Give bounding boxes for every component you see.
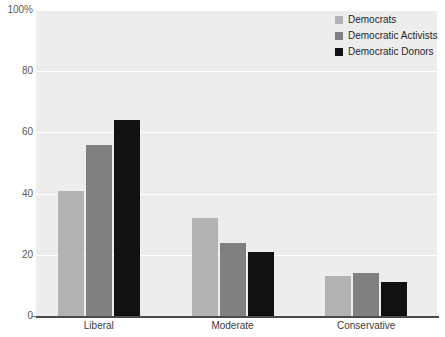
legend-label: Democratic Donors <box>348 46 434 57</box>
y-axis-tick-label: 100% <box>0 5 33 15</box>
gridline-80 <box>36 71 437 72</box>
bar <box>248 252 274 316</box>
bar <box>325 276 351 316</box>
x-axis-line <box>36 316 439 318</box>
bar <box>220 243 246 316</box>
bar <box>353 273 379 316</box>
legend: DemocratsDemocratic ActivistsDemocratic … <box>335 14 437 57</box>
bar <box>58 191 84 316</box>
bar <box>192 218 218 316</box>
gridline-60 <box>36 132 437 133</box>
y-axis-tick-label: 80 <box>0 66 33 76</box>
y-axis-tick <box>31 316 36 317</box>
y-axis-tick-label: 20 <box>0 250 33 260</box>
y-axis-tick-label: 60 <box>0 127 33 137</box>
x-axis-category-label: Conservative <box>305 320 427 332</box>
y-axis-tick-label: 40 <box>0 189 33 199</box>
legend-item: Democrats <box>335 14 437 25</box>
x-axis-category-label: Liberal <box>38 320 160 332</box>
legend-swatch-icon <box>335 16 343 24</box>
gridline-100 <box>36 10 437 11</box>
bar <box>381 282 407 316</box>
legend-swatch-icon <box>335 32 343 40</box>
legend-item: Democratic Donors <box>335 46 437 57</box>
bar-chart: 020406080100% LiberalModerateConservativ… <box>0 0 445 337</box>
legend-label: Democrats <box>348 14 396 25</box>
y-axis-tick-label: 0 <box>0 311 33 321</box>
legend-item: Democratic Activists <box>335 30 437 41</box>
x-axis-category-label: Moderate <box>172 320 294 332</box>
y-axis-labels: 020406080100% <box>0 0 33 337</box>
bar <box>86 145 112 316</box>
legend-label: Democratic Activists <box>348 30 437 41</box>
legend-swatch-icon <box>335 48 343 56</box>
bar <box>114 120 140 316</box>
